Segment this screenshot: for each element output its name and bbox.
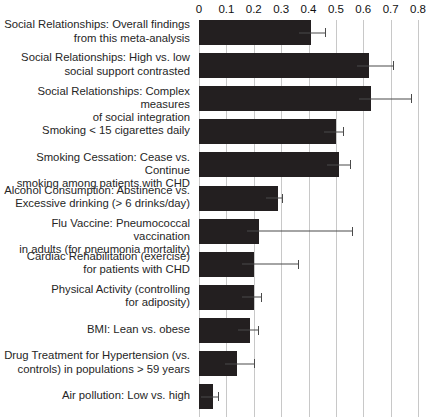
category-label: Drug Treatment for Hypertension (vs. con… [0, 349, 190, 375]
bar-row [199, 351, 418, 376]
error-bar-cap [350, 160, 351, 169]
error-bar-line [225, 363, 253, 364]
error-bar-line [238, 330, 258, 331]
error-bar-line [324, 131, 343, 132]
bar [199, 86, 371, 111]
error-bar-line [299, 32, 325, 33]
bar [199, 119, 336, 144]
error-bar-line [327, 164, 350, 165]
error-bar-line [242, 264, 298, 265]
bar-row [199, 186, 418, 211]
error-bar-cap [254, 359, 255, 368]
x-axis-tick-label: 0.2 [246, 4, 262, 16]
bar-row [199, 384, 418, 409]
category-label: Cardiac Rehabilitation (exercise) for pa… [0, 250, 190, 276]
error-bar-cap [343, 127, 344, 136]
bar-row [199, 86, 418, 111]
bar [199, 53, 369, 78]
plot-area [199, 20, 418, 417]
error-bar-line [266, 198, 282, 199]
x-axis-tick-labels: 00.10.20.30.40.50.60.70.8 [199, 3, 418, 19]
x-axis-tick-label: 0.7 [383, 4, 399, 16]
category-axis-labels: Social Relationships: Overall findings f… [0, 0, 193, 417]
error-bar-cap [218, 392, 219, 401]
bar-row [199, 152, 418, 177]
error-bar-line [201, 396, 218, 397]
x-axis-tick-label: 0.6 [355, 4, 371, 16]
error-bar-line [247, 231, 352, 232]
x-axis-tick-label: 0 [196, 4, 202, 16]
bar-row [199, 219, 418, 244]
category-label: Air pollution: Low vs. high [0, 389, 190, 402]
x-axis-tick-label: 0.4 [301, 4, 317, 16]
bar-row [199, 119, 418, 144]
x-axis-tick-label: 0.8 [410, 4, 426, 16]
x-axis-tick-label: 0.5 [328, 4, 344, 16]
gridline [418, 20, 419, 417]
category-label: Physical Activity (controlling for adipo… [0, 283, 190, 309]
category-label: Social Relationships: Overall findings f… [0, 18, 190, 44]
bar [199, 152, 339, 177]
bar-row [199, 252, 418, 277]
bar-row [199, 20, 418, 45]
bar-row [199, 285, 418, 310]
error-bar-cap [352, 227, 353, 236]
error-bar-cap [282, 194, 283, 203]
error-bar-cap [393, 61, 394, 70]
error-bar-line [242, 297, 261, 298]
category-label: BMI: Lean vs. obese [0, 323, 190, 336]
error-bar-line [357, 65, 394, 66]
error-bar-cap [411, 94, 412, 103]
category-label: Smoking < 15 cigarettes daily [0, 124, 190, 137]
bar-row [199, 53, 418, 78]
x-axis-tick-label: 0.1 [218, 4, 234, 16]
category-label: Social Relationships: High vs. low socia… [0, 51, 190, 77]
bar-row [199, 318, 418, 343]
bar [199, 20, 311, 45]
error-bar-cap [258, 326, 259, 335]
category-label: Social Relationships: Complex measures o… [0, 85, 190, 125]
error-bar-cap [261, 293, 262, 302]
error-bar-line [359, 98, 411, 99]
category-label: Alcohol Consumption: Abstinence vs. Exce… [0, 184, 190, 210]
error-bar-cap [298, 260, 299, 269]
x-axis-tick-label: 0.3 [273, 4, 289, 16]
error-bar-cap [325, 28, 326, 37]
